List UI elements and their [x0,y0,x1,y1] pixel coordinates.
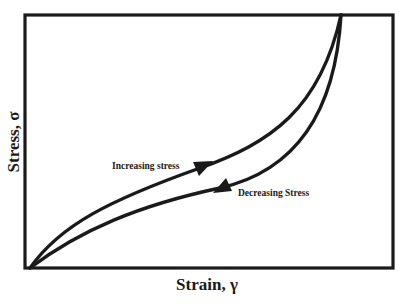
loading-curve [30,15,341,268]
unloading-curve [30,15,341,268]
unloading-arrow-icon [213,178,232,193]
unloading-label: Decreasing Stress [238,188,309,198]
loading-arrow-icon [193,161,213,176]
stress-strain-diagram: Increasing stress Decreasing Stress Stra… [0,0,399,305]
y-axis-label: Stress, σ [4,111,23,173]
x-axis-label: Strain, γ [176,275,238,294]
loading-label: Increasing stress [112,161,180,171]
